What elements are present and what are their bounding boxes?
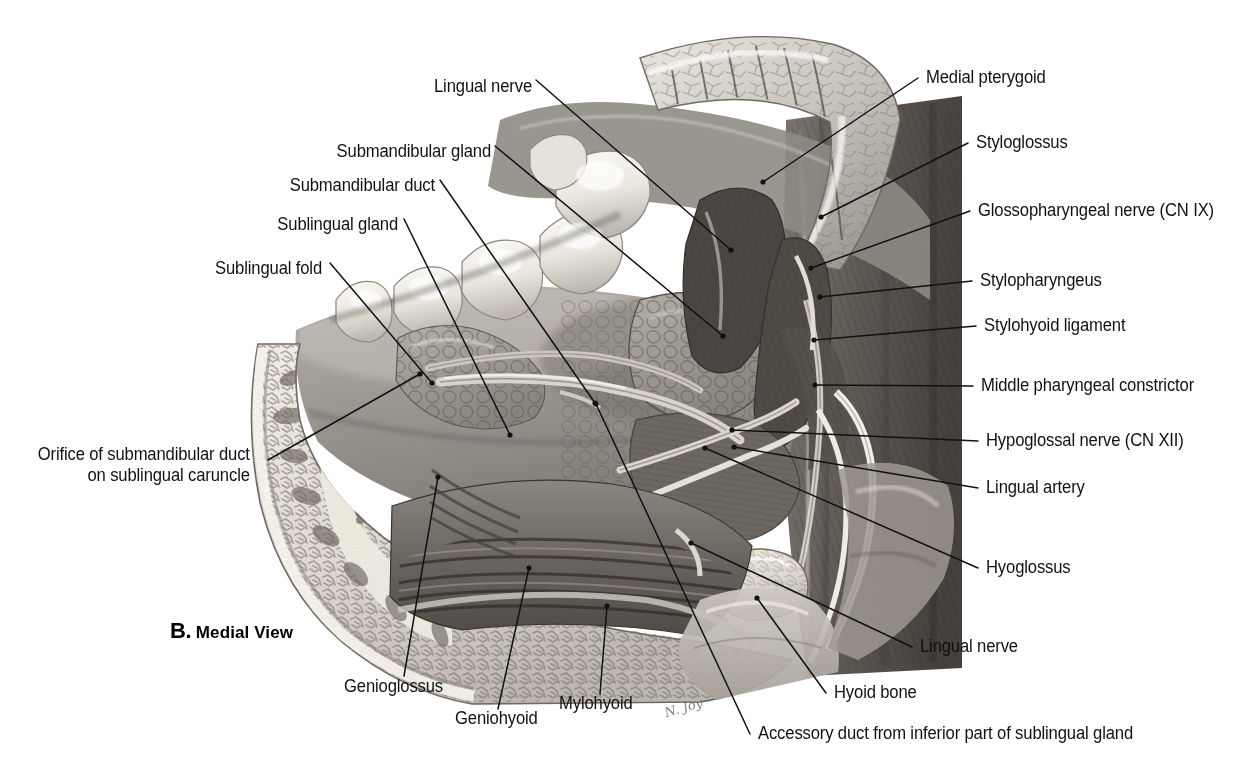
label-stylohyoid-ligament: Stylohyoid ligament [984, 315, 1125, 336]
label-mylohyoid: Mylohyoid [559, 693, 633, 714]
label-middle-pharyngeal-constrictor: Middle pharyngeal constrictor [981, 375, 1194, 396]
label-medial-pterygoid: Medial pterygoid [926, 67, 1046, 88]
label-orifice-submandibular-duct: Orifice of submandibular duct on subling… [18, 444, 250, 486]
label-lingual-nerve-top: Lingual nerve [285, 76, 532, 97]
label-lingual-nerve-bottom: Lingual nerve [920, 636, 1018, 657]
label-hypoglossal-nerve: Hypoglossal nerve (CN XII) [986, 430, 1184, 451]
label-hyoid-bone: Hyoid bone [834, 682, 917, 703]
label-lingual-artery: Lingual artery [986, 477, 1085, 498]
label-accessory-duct: Accessory duct from inferior part of sub… [758, 723, 1133, 744]
caption-letter: B. [170, 618, 191, 643]
figure-caption: B. Medial View [170, 618, 293, 644]
label-geniohyoid: Geniohyoid [455, 708, 538, 729]
label-submandibular-gland: Submandibular gland [248, 141, 491, 162]
label-stylopharyngeus: Stylopharyngeus [980, 270, 1102, 291]
submandibular-fascia [679, 588, 839, 700]
label-sublingual-gland: Sublingual gland [210, 214, 398, 235]
label-orifice-line1: Orifice of submandibular duct [38, 444, 250, 464]
label-genioglossus: Genioglossus [344, 676, 443, 697]
label-submandibular-duct: Submandibular duct [198, 175, 436, 196]
caption-text: Medial View [196, 623, 293, 642]
anatomy-figure: Lingual nerve Submandibular gland Subman… [0, 0, 1254, 765]
label-styloglossus: Styloglossus [976, 132, 1068, 153]
label-orifice-line2: on sublingual caruncle [87, 465, 249, 485]
label-hyoglossus: Hyoglossus [986, 557, 1071, 578]
label-glossopharyngeal-nerve: Glossopharyngeal nerve (CN IX) [978, 200, 1214, 221]
label-sublingual-fold: Sublingual fold [149, 258, 322, 279]
